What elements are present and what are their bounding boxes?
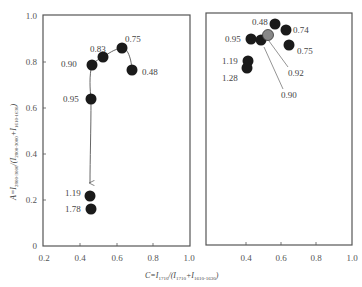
y-tick-label: 0.4 xyxy=(26,149,38,159)
data-point xyxy=(117,43,128,54)
left-panel: 0 0.2 0.4 0.6 0.8 1.0 0.2 0.4 0.6 0.8 1.… xyxy=(26,11,195,263)
point-label: 0.90 xyxy=(61,59,77,69)
chart-figure: 0 0.2 0.4 0.6 0.8 1.0 0.2 0.4 0.6 0.8 1.… xyxy=(0,0,362,287)
x-tick-label: 0.6 xyxy=(275,253,287,263)
point-label: 0.95 xyxy=(225,34,241,44)
data-point xyxy=(127,65,138,76)
right-panel: 0.4 0.6 0.8 1.0 0.48 0.74 0.95 0.75 1.19… xyxy=(206,13,358,263)
x-tick-label: 1.0 xyxy=(346,253,358,263)
leader-line xyxy=(264,47,283,89)
point-label: 0.75 xyxy=(125,34,141,44)
data-point xyxy=(85,191,96,202)
right-plot-frame xyxy=(206,13,352,245)
x-tick-label: 0.8 xyxy=(310,253,322,263)
y-tick-label: 0.8 xyxy=(26,57,38,67)
x-tick-label: 1.0 xyxy=(183,253,195,263)
x-tick-label: 0.4 xyxy=(240,253,252,263)
point-label: 0.90 xyxy=(281,90,297,100)
point-label: 0.75 xyxy=(297,46,313,56)
y-axis-label: A=I2800-3000/(I2800-3000+I1610-1630) xyxy=(9,103,19,201)
x-tick-label: 0.6 xyxy=(111,253,123,263)
data-point-highlight xyxy=(263,30,274,41)
data-point xyxy=(242,63,253,74)
y-tick-label: 0.6 xyxy=(26,103,38,113)
data-point xyxy=(86,204,97,215)
point-label: 0.48 xyxy=(252,17,268,27)
x-tick-label: 0.2 xyxy=(38,253,49,263)
point-label: 1.19 xyxy=(222,56,238,66)
point-label: 1.78 xyxy=(65,204,81,214)
x-tick-label: 0.4 xyxy=(74,253,86,263)
data-point xyxy=(281,25,292,36)
point-label: 0.74 xyxy=(293,25,309,35)
y-tick-label: 0 xyxy=(33,241,38,251)
y-tick-label: 1.0 xyxy=(26,11,38,21)
point-label: 1.19 xyxy=(65,188,81,198)
point-label: 1.28 xyxy=(222,73,238,83)
y-tick-label: 0.2 xyxy=(26,195,37,205)
x-axis-label: C=I1710/(I1710+I1610-1630) xyxy=(145,271,219,281)
x-tick-label: 0.8 xyxy=(147,253,159,263)
data-point xyxy=(86,94,97,105)
point-label: 0.95 xyxy=(63,94,79,104)
data-point xyxy=(246,34,257,45)
point-label: 0.92 xyxy=(288,68,304,78)
data-point xyxy=(284,40,295,51)
data-point xyxy=(270,19,281,30)
point-label: 0.48 xyxy=(142,67,158,77)
point-label: 0.83 xyxy=(90,44,106,54)
data-point xyxy=(87,60,98,71)
